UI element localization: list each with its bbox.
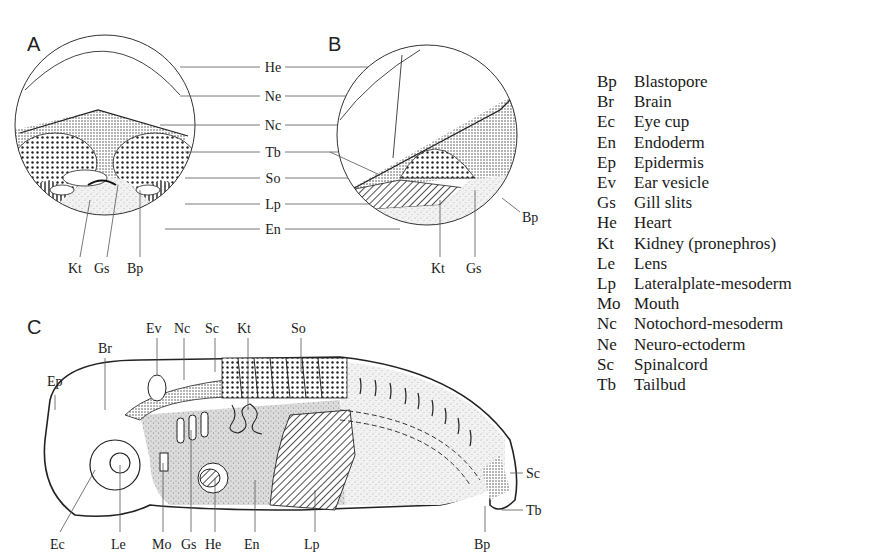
label-tb: Tb [265, 145, 281, 160]
legend-abbr: Br [597, 92, 634, 112]
legend-abbr: Nc [597, 314, 634, 334]
legend-term: Notochord-mesoderm [634, 314, 783, 334]
panel-b-letter: B [328, 33, 341, 55]
legend-term: Gill slits [634, 193, 692, 213]
legend-abbr: Lp [597, 274, 634, 294]
legend-term: Spinalcord [634, 355, 708, 375]
label-c-ec: Ec [50, 537, 65, 552]
legend-abbr: Ne [597, 335, 634, 355]
label-c-nc: Nc [174, 321, 190, 336]
label-a-bp: Bp [127, 261, 143, 276]
legend-abbr: Ev [597, 173, 634, 193]
legend-abbr: Le [597, 254, 634, 274]
legend-item: BrBrain [597, 92, 792, 112]
label-lp: Lp [265, 197, 281, 212]
legend-item: HeHeart [597, 213, 792, 233]
legend-term: Kidney (pronephros) [634, 234, 776, 254]
legend-item: NcNotochord-mesoderm [597, 314, 792, 334]
legend-item: EvEar vesicle [597, 173, 792, 193]
label-en: En [265, 222, 281, 237]
legend-term: Endoderm [634, 133, 705, 153]
legend-term: Tailbud [634, 375, 686, 395]
legend-abbr: Ep [597, 153, 634, 173]
label-c-le: Le [111, 537, 126, 552]
label-ne: Ne [265, 89, 281, 104]
label-c-sc: Sc [205, 321, 219, 336]
label-c-ev: Ev [146, 321, 162, 336]
label-c-so: So [291, 321, 306, 336]
legend-term: Brain [634, 92, 672, 112]
label-c-br: Br [98, 341, 112, 356]
legend-term: Eye cup [634, 112, 689, 132]
label-c-mo: Mo [152, 537, 171, 552]
legend-item: TbTailbud [597, 375, 792, 395]
legend-term: Neuro-ectoderm [634, 335, 745, 355]
panel-a-letter: A [27, 33, 41, 55]
legend-abbr: Mo [597, 294, 634, 314]
label-so: So [266, 171, 281, 186]
legend-item: EnEndoderm [597, 133, 792, 153]
legend-abbr: Gs [597, 193, 634, 213]
legend-abbr: He [597, 213, 634, 233]
legend-term: Lateralplate-mesoderm [634, 274, 792, 294]
label-b-gs: Gs [466, 261, 482, 276]
legend-item: NeNeuro-ectoderm [597, 334, 792, 354]
legend-abbr: Ec [597, 112, 634, 132]
legend-item: EpEpidermis [597, 153, 792, 173]
label-c-lp: Lp [304, 537, 320, 552]
label-c-gs: Gs [181, 537, 197, 552]
legend-item: LeLens [597, 254, 792, 274]
legend-item: GsGill slits [597, 193, 792, 213]
legend-term: Epidermis [634, 153, 704, 173]
label-c-ep: Ep [47, 374, 63, 389]
label-c-en: En [244, 537, 260, 552]
legend-abbr: En [597, 133, 634, 153]
panel-b: B Bp Kt Gs [328, 33, 538, 276]
legend-abbr: Sc [597, 355, 634, 375]
legend-item: ScSpinalcord [597, 355, 792, 375]
panel-c: C [27, 316, 542, 552]
label-b-bp: Bp [522, 210, 538, 225]
legend-term: Ear vesicle [634, 173, 709, 193]
legend: BpBlastoporeBrBrainEcEye cupEnEndodermEp… [597, 72, 792, 395]
label-c-kt: Kt [237, 321, 251, 336]
legend-item: EcEye cup [597, 112, 792, 132]
legend-term: Mouth [634, 294, 679, 314]
panel-c-letter: C [27, 316, 41, 338]
label-a-kt: Kt [68, 261, 82, 276]
label-b-kt: Kt [431, 261, 445, 276]
label-c-bp: Bp [474, 537, 490, 552]
legend-term: Blastopore [634, 72, 708, 92]
label-c-tb: Tb [526, 503, 542, 518]
label-he: He [265, 60, 281, 75]
label-c-sc-tail: Sc [526, 466, 540, 481]
legend-term: Lens [634, 254, 667, 274]
label-nc: Nc [265, 118, 281, 133]
legend-term: Heart [634, 213, 672, 233]
label-c-he: He [205, 537, 221, 552]
legend-item: LpLateralplate-mesoderm [597, 274, 792, 294]
legend-item: MoMouth [597, 294, 792, 314]
legend-abbr: Kt [597, 234, 634, 254]
legend-abbr: Tb [597, 375, 634, 395]
label-a-gs: Gs [94, 261, 110, 276]
legend-item: BpBlastopore [597, 72, 792, 92]
legend-item: KtKidney (pronephros) [597, 234, 792, 254]
legend-abbr: Bp [597, 72, 634, 92]
